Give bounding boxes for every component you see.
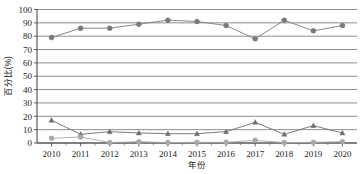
y-tick-label-60: 60 (23, 58, 33, 68)
y-tick-label-100: 100 (19, 5, 33, 15)
x-tick-label-2017: 2017 (246, 149, 265, 159)
y-tick-label-80: 80 (23, 31, 33, 41)
y-tick-label-70: 70 (23, 45, 33, 55)
y-tick-label-50: 50 (23, 71, 33, 81)
x-tick-label-2012: 2012 (101, 149, 119, 159)
data-point-series-3-2013 (136, 139, 141, 144)
x-tick-label-2016: 2016 (217, 149, 236, 159)
x-tick-label-2013: 2013 (130, 149, 149, 159)
data-point-series-3-2018 (282, 140, 287, 145)
x-tick-label-2015: 2015 (188, 149, 207, 159)
data-point-series-3-2020 (340, 139, 345, 144)
data-point-series-2-2017 (253, 120, 258, 125)
data-point-series-1-2018 (282, 18, 287, 23)
data-point-series-1-2010 (49, 35, 54, 40)
y-tick-label-10: 10 (23, 125, 33, 135)
data-point-series-1-2012 (107, 26, 112, 31)
y-tick-label-90: 90 (23, 18, 33, 28)
x-axis-title: 年份 (188, 160, 206, 170)
data-point-series-3-2014 (165, 140, 170, 145)
y-tick-label-30: 30 (23, 98, 33, 108)
y-axis-title: 百分比(%) (3, 56, 13, 96)
data-point-series-1-2014 (165, 18, 170, 23)
x-tick-label-2018: 2018 (275, 149, 294, 159)
data-point-series-1-2017 (253, 36, 258, 41)
data-point-series-1-2013 (136, 22, 141, 27)
x-tick-label-2014: 2014 (159, 149, 178, 159)
x-tick-label-2010: 2010 (43, 149, 62, 159)
data-point-series-1-2019 (311, 28, 316, 33)
data-point-series-3-2011 (78, 134, 83, 139)
line-chart: 0102030405060708090100201020112012201320… (0, 0, 363, 174)
data-point-series-2-2019 (311, 123, 316, 128)
y-tick-label-0: 0 (28, 138, 33, 148)
data-point-series-3-2010 (49, 136, 54, 141)
y-tick-label-40: 40 (23, 85, 33, 95)
data-point-series-3-2015 (195, 140, 200, 145)
data-point-series-2-2010 (49, 118, 54, 123)
data-point-series-1-2016 (224, 23, 229, 28)
x-tick-label-2020: 2020 (333, 149, 352, 159)
y-tick-label-20: 20 (23, 112, 33, 122)
data-point-series-1-2020 (340, 23, 345, 28)
data-point-series-3-2019 (311, 140, 316, 145)
data-point-series-3-2012 (107, 140, 112, 145)
data-point-series-1-2015 (195, 19, 200, 24)
x-tick-label-2011: 2011 (72, 149, 90, 159)
data-point-series-3-2017 (253, 138, 258, 143)
data-point-series-1-2011 (78, 26, 83, 31)
data-point-series-3-2016 (224, 140, 229, 145)
chart-container: 0102030405060708090100201020112012201320… (0, 0, 363, 174)
x-tick-label-2019: 2019 (304, 149, 323, 159)
